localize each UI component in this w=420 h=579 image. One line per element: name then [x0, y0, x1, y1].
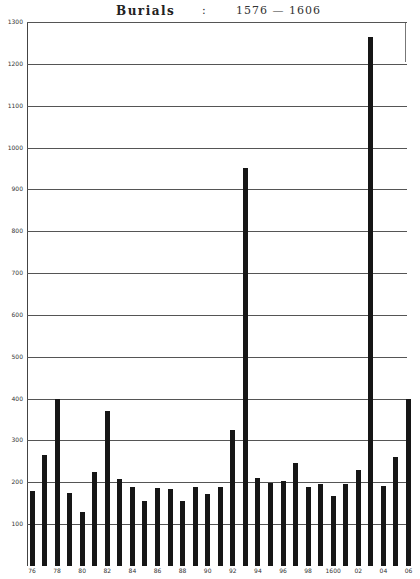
x-tick-label: 98: [298, 567, 318, 574]
bar-1588: [180, 501, 185, 566]
x-tick-label: 88: [173, 567, 193, 574]
bar-1598: [306, 487, 311, 566]
y-tick-label: 1000: [0, 144, 23, 151]
bar-1595: [268, 483, 273, 566]
x-tick-label: 78: [47, 567, 67, 574]
bar-1592: [230, 430, 235, 566]
bar-1585: [142, 501, 147, 566]
gridline: [27, 106, 407, 107]
x-tick-label: 96: [273, 567, 293, 574]
bar-1578: [55, 399, 60, 566]
bar-1583: [117, 479, 122, 566]
x-tick-label: 04: [373, 567, 393, 574]
bar-1580: [80, 512, 85, 566]
gridline: [27, 482, 407, 483]
chart-title-range: 1576 — 1606: [236, 4, 321, 17]
plot-frame-right: [405, 22, 406, 62]
chart-title: Burials : 1576 — 1606: [0, 4, 420, 20]
chart-title-word: Burials: [116, 4, 175, 18]
gridline: [27, 148, 407, 149]
x-tick-label: 86: [148, 567, 168, 574]
y-tick-label: 900: [0, 185, 23, 192]
x-tick-label: 92: [223, 567, 243, 574]
y-tick-label: 500: [0, 353, 23, 360]
y-tick-label: 200: [0, 478, 23, 485]
bar-1576: [30, 491, 35, 566]
bar-1589: [193, 487, 198, 566]
y-tick-label: 600: [0, 311, 23, 318]
gridline: [27, 315, 407, 316]
y-tick-label: 400: [0, 395, 23, 402]
chart-title-separator: :: [202, 4, 206, 17]
gridline: [27, 64, 407, 65]
bar-1591: [218, 487, 223, 566]
bar-1587: [168, 489, 173, 566]
bar-1586: [155, 488, 160, 566]
bar-1581: [92, 472, 97, 566]
bar-1590: [205, 494, 210, 566]
y-tick-label: 1100: [0, 102, 23, 109]
bar-1606: [406, 399, 411, 566]
bar-1604: [381, 486, 386, 566]
x-tick-label: 02: [348, 567, 368, 574]
bar-1601: [343, 484, 348, 566]
y-tick-label: 1200: [0, 60, 23, 67]
x-tick-label: 06: [399, 567, 419, 574]
gridline: [27, 357, 407, 358]
bar-1582: [105, 411, 110, 566]
x-tick-label: 80: [72, 567, 92, 574]
x-tick-label: 84: [122, 567, 142, 574]
bar-1599: [318, 484, 323, 566]
x-tick-label: 76: [22, 567, 42, 574]
y-tick-label: 800: [0, 227, 23, 234]
bar-1603: [368, 37, 373, 566]
bar-1577: [42, 455, 47, 566]
plot-area: 1002003004005006007008009001000110012001…: [27, 22, 408, 566]
y-tick-label: 100: [0, 520, 23, 527]
gridline: [27, 273, 407, 274]
y-tick-label: 300: [0, 436, 23, 443]
gridline: [27, 231, 407, 232]
y-axis-line: [27, 22, 28, 566]
bar-1597: [293, 463, 298, 566]
x-tick-label: 90: [198, 567, 218, 574]
gridline: [27, 440, 407, 441]
bar-1584: [130, 487, 135, 566]
x-tick-label: 82: [97, 567, 117, 574]
y-tick-label: 1300: [0, 18, 23, 25]
bar-1594: [255, 478, 260, 566]
gridline: [27, 399, 407, 400]
bar-1605: [393, 457, 398, 566]
x-tick-label: 94: [248, 567, 268, 574]
y-tick-label: 700: [0, 269, 23, 276]
bar-1600: [331, 496, 336, 566]
bar-1602: [356, 470, 361, 566]
gridline: [27, 22, 407, 23]
bar-1596: [281, 481, 286, 566]
gridline: [27, 189, 407, 190]
bar-1579: [67, 493, 72, 566]
x-tick-label: 1600: [323, 567, 343, 574]
bar-1593: [243, 168, 248, 566]
